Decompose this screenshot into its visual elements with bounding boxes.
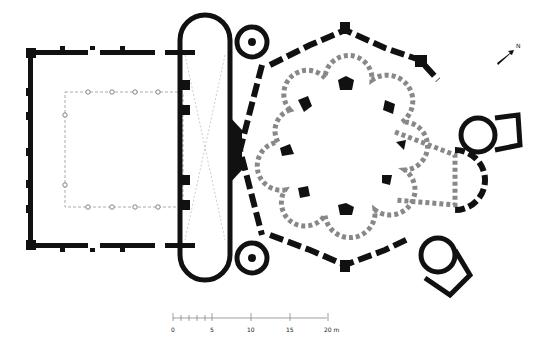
floor-plan (0, 0, 547, 354)
north-arrow (497, 50, 514, 65)
scale-tick-10: 10 (247, 326, 255, 333)
scale-tick-5: 5 (210, 326, 214, 333)
atrium-colonnade (65, 92, 183, 207)
scale-tick-15: 15 (286, 326, 294, 333)
sanctuary (395, 115, 520, 295)
scale-tick-0: 0 (171, 326, 175, 333)
scale-bar (173, 313, 328, 321)
atrium (26, 46, 195, 252)
north-label: N (516, 42, 521, 49)
scale-tick-20: 20 m (324, 326, 339, 333)
